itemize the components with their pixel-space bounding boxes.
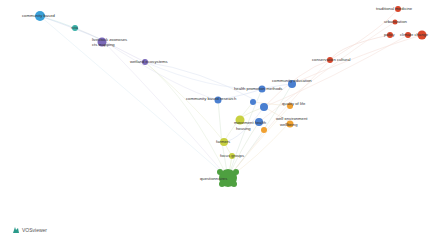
app-name: VOSviewer bbox=[22, 227, 47, 233]
node-green-sub[interactable] bbox=[219, 181, 225, 187]
label-wetland: wetland ecosystems bbox=[130, 59, 168, 64]
label-rcta: rcta bbox=[71, 25, 79, 30]
label-community-research: community based research bbox=[186, 96, 237, 101]
node-blue-b[interactable] bbox=[260, 103, 268, 111]
label-community-based: community based bbox=[22, 13, 55, 18]
label-cts: cts mapping bbox=[92, 42, 115, 47]
network-map[interactable]: community based rcta livestock zoonoses … bbox=[0, 0, 437, 246]
label-traditional: traditional medicine bbox=[376, 6, 413, 11]
label-climate: climate change bbox=[400, 32, 429, 37]
label-urban: urbanization bbox=[384, 19, 407, 24]
vosviewer-logo-icon bbox=[12, 226, 20, 234]
label-movement2: housing bbox=[236, 126, 251, 131]
label-focus: focus groups bbox=[220, 153, 244, 158]
label-wellbeing2: wellbeing bbox=[280, 122, 298, 127]
label-quality: quality of life bbox=[282, 101, 306, 106]
label-questionnaires: questionnaires bbox=[200, 176, 227, 181]
label-community-edu: community education bbox=[272, 78, 312, 83]
label-wellbeing: well environment bbox=[276, 116, 308, 121]
node-blue-a[interactable] bbox=[250, 99, 256, 105]
labels: community based rcta livestock zoonoses … bbox=[22, 6, 429, 181]
label-policy: policy bbox=[384, 32, 396, 37]
vosviewer-logo: VOSviewer bbox=[12, 226, 47, 234]
node-green-sub[interactable] bbox=[217, 169, 223, 175]
node-green-sub[interactable] bbox=[231, 181, 237, 187]
node-green-sub[interactable] bbox=[233, 169, 239, 175]
label-conservation: conservation cultural bbox=[312, 57, 350, 62]
label-health-promo: health promotion methods bbox=[234, 86, 282, 91]
label-movement: movement health bbox=[234, 120, 267, 125]
node-orange-b[interactable] bbox=[261, 127, 267, 133]
label-farmers: farmers bbox=[216, 139, 230, 144]
